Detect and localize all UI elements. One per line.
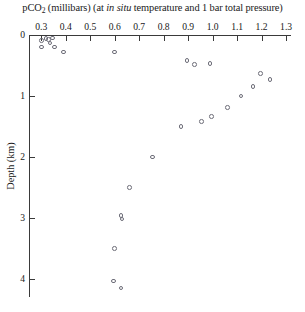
x-axis-line [29, 35, 291, 36]
y-tick-label: 3 [13, 212, 25, 223]
chart-title-italic: in situ [106, 2, 131, 13]
data-point [209, 114, 214, 119]
x-tick [66, 36, 67, 41]
chart-title-tail: temperature and 1 bar total pressure) [131, 2, 282, 13]
data-point [111, 279, 116, 284]
data-point [268, 77, 273, 82]
x-tick [139, 36, 140, 41]
y-tick [30, 35, 35, 36]
data-point [225, 105, 230, 110]
data-point [120, 217, 125, 222]
data-point [112, 246, 117, 251]
x-tick [237, 36, 238, 41]
y-tick [30, 157, 35, 158]
data-point [208, 61, 213, 66]
data-point [112, 50, 117, 55]
x-tick [188, 36, 189, 41]
data-point [239, 94, 244, 99]
data-point [48, 41, 53, 46]
chart-title: pCO2 (millibars) (at in situ temperature… [0, 1, 305, 17]
data-point [127, 185, 132, 190]
y-tick [30, 96, 35, 97]
x-tick [115, 36, 116, 41]
data-point [258, 71, 263, 76]
chart-title-mid: (millibars) (at [45, 2, 106, 13]
x-tick [164, 36, 165, 41]
data-point [61, 50, 66, 55]
x-tick-label: 1.3 [271, 21, 301, 32]
y-tick [30, 279, 35, 280]
chart-figure: pCO2 (millibars) (at in situ temperature… [0, 0, 305, 312]
y-tick-label: 4 [13, 273, 25, 284]
y-tick [30, 218, 35, 219]
data-point [192, 62, 197, 67]
x-tick [213, 36, 214, 41]
plot-area: 0.30.40.50.60.70.80.91.01.11.21.3 01234 … [29, 35, 291, 297]
y-tick-label: 0 [13, 29, 25, 40]
y-tick-label: 1 [13, 90, 25, 101]
data-point [39, 38, 44, 43]
y-axis-label: Depth (km) [5, 142, 16, 189]
data-point [199, 119, 204, 124]
data-point [185, 58, 190, 63]
y-axis-line [29, 35, 30, 297]
data-point [50, 36, 55, 41]
chart-title-lead: pCO [22, 2, 41, 13]
data-point [39, 45, 44, 50]
data-point [179, 124, 184, 129]
x-tick [262, 36, 263, 41]
x-tick [90, 36, 91, 41]
data-point [150, 155, 155, 160]
data-point [251, 84, 256, 89]
data-point [52, 45, 57, 50]
data-point [119, 286, 124, 291]
x-tick [286, 36, 287, 41]
